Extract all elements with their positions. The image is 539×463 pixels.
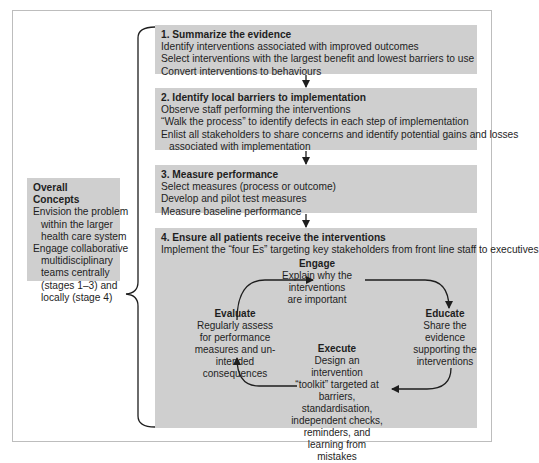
execute-line: independent checks,: [289, 415, 385, 427]
arrow-engage-to-educate: [365, 280, 449, 308]
concept-line: health care system: [33, 231, 114, 243]
stage-3-line: Develop and pilot test measures: [161, 193, 471, 205]
educate-title: Educate: [411, 308, 479, 320]
evaluate-block: Evaluate Regularly assess for performanc…: [185, 308, 285, 380]
engage-block: Engage Explain why the interventions are…: [281, 258, 353, 306]
stage-4-box: 4. Ensure all patients receive the inter…: [155, 228, 477, 428]
stage-1-title: 1. Summarize the evidence: [161, 29, 471, 41]
engage-line: are important: [281, 294, 353, 306]
educate-line: evidence: [411, 332, 479, 344]
evaluate-line: measures and un-: [185, 344, 285, 356]
concept-line: (stages 1–3) and: [33, 280, 114, 292]
stage-1-box: 1. Summarize the evidence Identify inter…: [155, 25, 477, 74]
stage-2-line: Observe staff performing the interventio…: [161, 104, 471, 116]
engage-line: interventions: [281, 282, 353, 294]
stage-3-box: 3. Measure performance Select measures (…: [155, 165, 477, 213]
stage-2-line: Enlist all stakeholders to share concern…: [161, 129, 471, 141]
concept-line: locally (stage 4): [33, 292, 114, 304]
stage-3-line: Select measures (process or outcome): [161, 181, 471, 193]
educate-line: Share the: [411, 320, 479, 332]
stage-1-line: Identify interventions associated with i…: [161, 41, 471, 53]
curly-bracket: [126, 27, 155, 427]
evaluate-line: for performance: [185, 332, 285, 344]
execute-title: Execute: [289, 343, 385, 355]
educate-line: supporting the: [411, 344, 479, 356]
concept-line: teams centrally: [33, 267, 114, 279]
educate-block: Educate Share the evidence supporting th…: [411, 308, 479, 368]
concept-line: multidisciplinary: [33, 255, 114, 267]
execute-line: Design an intervention: [289, 355, 385, 379]
stage-1-line: Select interventions with the largest be…: [161, 53, 471, 65]
stage-2-box: 2. Identify local barriers to implementa…: [155, 88, 477, 150]
evaluate-line: intended consequences: [185, 356, 285, 380]
stage-3-line: Measure baseline performance: [161, 206, 471, 218]
engage-title: Engage: [281, 258, 353, 270]
execute-line: “toolkit” targeted at: [289, 379, 385, 391]
execute-line: barriers, standardisation,: [289, 391, 385, 415]
concept-line: Envision the problem: [33, 206, 114, 218]
stage-2-line: associated with implementation: [161, 141, 471, 153]
engage-line: Explain why the: [281, 270, 353, 282]
overall-concepts-title: Overall Concepts: [33, 182, 114, 206]
concept-line: within the larger: [33, 219, 114, 231]
execute-line: learning from mistakes: [289, 439, 385, 463]
stage-2-line: “Walk the process” to identify defects i…: [161, 116, 471, 128]
concept-line: Engage collaborative: [33, 243, 114, 255]
overall-concepts-box: Overall Concepts Envision the problem wi…: [27, 178, 120, 281]
educate-line: interventions: [411, 356, 479, 368]
stage-2-title: 2. Identify local barriers to implementa…: [161, 92, 471, 104]
stage-3-title: 3. Measure performance: [161, 169, 471, 181]
execute-line: reminders, and: [289, 427, 385, 439]
arrow-educate-to-execute: [392, 368, 451, 389]
stage-1-line: Convert interventions to behaviours: [161, 66, 471, 78]
evaluate-title: Evaluate: [185, 308, 285, 320]
evaluate-line: Regularly assess: [185, 320, 285, 332]
execute-block: Execute Design an intervention “toolkit”…: [289, 343, 385, 463]
